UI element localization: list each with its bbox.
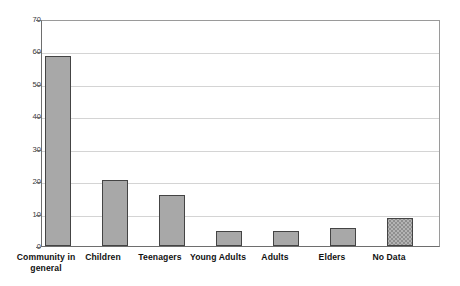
plot-area xyxy=(41,20,440,247)
x-category-label-line1: Adults xyxy=(261,252,288,262)
x-category-label-line1: No Data xyxy=(372,252,405,262)
bar-children[interactable] xyxy=(102,180,128,246)
bar-teenagers[interactable] xyxy=(159,195,185,246)
bar-no-data[interactable] xyxy=(387,218,413,246)
bar-adults[interactable] xyxy=(273,231,299,246)
y-tick-mark-0 xyxy=(36,247,41,248)
gridline-40 xyxy=(42,118,439,119)
bar-young-adults[interactable] xyxy=(216,231,242,246)
gridline-30 xyxy=(42,151,439,152)
gridline-60 xyxy=(42,53,439,54)
x-category-label-line1: Children xyxy=(85,252,121,262)
x-category-label-no-data: No Data xyxy=(351,252,427,263)
bar-chart: 70 60 50 40 30 20 10 0 Commu xyxy=(0,0,460,286)
x-category-label-line1: Teenagers xyxy=(138,252,181,262)
bar-community-in-general[interactable] xyxy=(45,56,71,246)
gridline-50 xyxy=(42,86,439,87)
y-axis: 70 60 50 40 30 20 10 0 xyxy=(0,0,41,286)
x-category-label-line1: Elders xyxy=(319,252,346,262)
bar-elders[interactable] xyxy=(330,228,356,246)
x-category-label-line2: general xyxy=(30,263,61,273)
